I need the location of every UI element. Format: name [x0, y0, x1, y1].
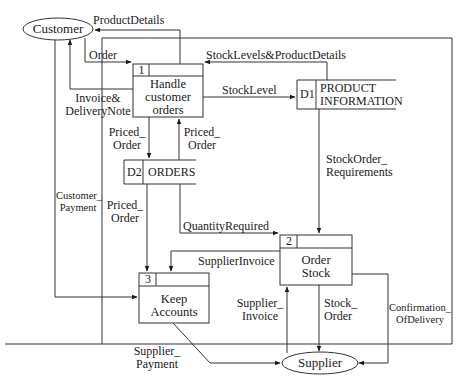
flow-stock-levels-product-details: StockLevels&ProductDetails: [206, 49, 346, 62]
flow-stock-order: Stock_ Order: [324, 297, 357, 323]
process-2-line2: Stock: [280, 267, 352, 280]
flow-product-details: ProductDetails: [93, 14, 164, 27]
flow-priced-order-b-line2: Order: [183, 139, 221, 152]
flow-stock-order-line2: Order: [324, 310, 357, 323]
d2-code: D2: [127, 166, 142, 179]
flow-supplier-payment-line2: Payment: [132, 358, 182, 371]
process-3-label: Keep Accounts: [139, 293, 209, 319]
flow-stock-order-req-line2: Requirements: [326, 166, 393, 179]
flow-invoice-line2: DeliveryNote: [64, 105, 132, 118]
flow-supplier-invoice-2-line2: Invoice: [236, 310, 284, 323]
flow-priced-order-c-line2: Order: [106, 212, 144, 225]
flow-customer-payment-line1: Customer_: [56, 190, 100, 202]
process-3-number: 3: [140, 273, 156, 286]
flow-customer-payment: Customer_ Payment: [56, 190, 100, 214]
flow-customer-payment-line2: Payment: [56, 202, 100, 214]
d1-label-line2: INFORMATION: [320, 95, 403, 108]
d1-code: D1: [300, 88, 315, 101]
process-1-label: Handle customer orders: [133, 78, 203, 117]
flow-supplier-invoice: SupplierInvoice: [198, 255, 275, 268]
customer-entity: Customer: [23, 22, 93, 35]
supplier-entity: Supplier: [282, 356, 358, 369]
process-1-number: 1: [134, 64, 149, 77]
process-3-line2: Accounts: [139, 306, 209, 319]
flow-priced-order-c: Priced_ Order: [106, 199, 144, 225]
flow-priced-order-a-line2: Order: [108, 139, 146, 152]
flow-confirmation-line1: Confirmation_: [388, 302, 452, 314]
flow-confirmation-of-delivery: Confirmation_ OfDelivery: [388, 302, 452, 326]
flow-stock-order-requirements: StockOrder_ Requirements: [326, 153, 393, 179]
flow-stock-level: StockLevel: [222, 84, 277, 97]
process-2-label: Order Stock: [280, 254, 352, 280]
d2-label: ORDERS: [148, 166, 195, 179]
flow-supplier-invoice-2: Supplier_ Invoice: [236, 297, 284, 323]
process-1-line3: orders: [133, 104, 203, 117]
flow-invoice-delivery-note: Invoice& DeliveryNote: [64, 92, 132, 118]
flow-supplier-payment: Supplier_ Payment: [132, 345, 182, 371]
flow-confirmation-line2: OfDelivery: [388, 314, 452, 326]
flow-priced-order-a: Priced_ Order: [108, 126, 146, 152]
flow-priced-order-b: Priced_ Order: [183, 126, 221, 152]
process-2-number: 2: [281, 235, 297, 248]
flow-quantity-required: QuantityRequired: [183, 220, 269, 233]
flow-order: Order: [89, 49, 117, 62]
